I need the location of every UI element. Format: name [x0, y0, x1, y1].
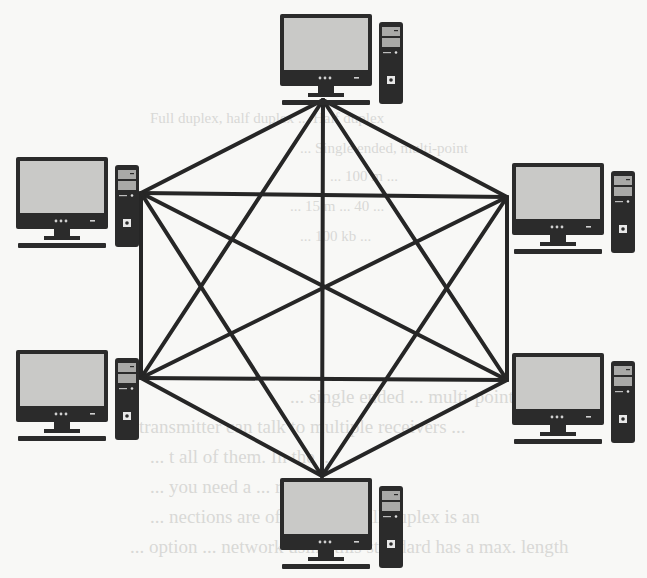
link-top-lefttop [141, 100, 323, 193]
link-rightbottom-bottom [322, 380, 507, 476]
link-leftbottom-rightbottom [141, 378, 507, 380]
link-leftbottom-bottom [141, 378, 322, 476]
book-page: Full duplex, half duplex ... Half duplex… [0, 0, 647, 578]
computer-icon-right-bottom [512, 353, 635, 444]
computer-icon-top [280, 14, 403, 105]
mesh-links [141, 100, 507, 476]
link-top-righttop [323, 100, 507, 197]
mesh-network-diagram [0, 0, 647, 578]
computer-icon-bottom [280, 478, 403, 569]
computer-icon-left-bottom [16, 350, 139, 441]
computer-icon-right-top [512, 163, 635, 254]
computer-icon-left-top [16, 157, 139, 248]
link-lefttop-righttop [141, 193, 507, 197]
